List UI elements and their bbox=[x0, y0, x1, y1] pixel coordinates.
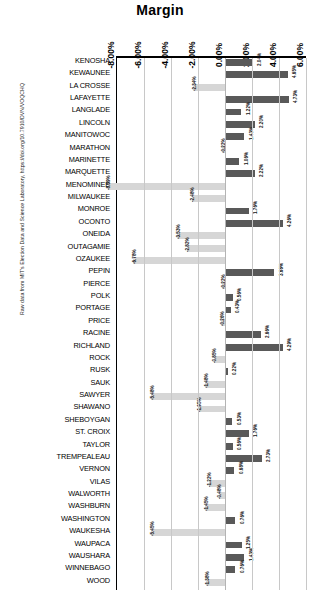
bar-row: 3.66% bbox=[117, 268, 306, 277]
bar-langlade bbox=[225, 109, 241, 116]
bar-polk bbox=[225, 294, 233, 301]
bar-row: 4.26% bbox=[117, 219, 306, 228]
bar-pepin bbox=[225, 269, 274, 276]
bar-value-label: -1.38% bbox=[205, 571, 210, 586]
y-axis-label-portage: PORTAGE bbox=[76, 303, 110, 312]
bar-value-label: 0.56% bbox=[237, 437, 242, 450]
y-axis-label-sheboygan: SHEBOYGAN bbox=[65, 415, 111, 424]
chart-page: Raw data from MIT's Election Data and Sc… bbox=[0, 0, 320, 604]
y-axis-label-marinette: MARINETTE bbox=[69, 155, 110, 164]
y-axis-label-lincoln: LINCOLN bbox=[79, 118, 110, 127]
bar-value-label: 4.73% bbox=[293, 90, 298, 103]
y-axis-label-sawyer: SAWYER bbox=[79, 390, 110, 399]
y-axis-label-monroe: MONROE bbox=[78, 204, 110, 213]
bar-row: 4.73% bbox=[117, 95, 306, 104]
bar-value-label: 4.26% bbox=[287, 214, 292, 227]
y-axis-label-vilas: VILAS bbox=[90, 477, 110, 486]
y-axis-label-oconto: OCONTO bbox=[79, 217, 110, 226]
bar-winnebago bbox=[225, 566, 235, 573]
bar-value-label: 1.25% bbox=[246, 535, 251, 548]
y-axis-label-polk: POLK bbox=[91, 291, 110, 300]
bar-value-label: 0.53% bbox=[237, 412, 242, 425]
zero-line bbox=[225, 58, 226, 590]
y-axis-label-shawano: SHAWANO bbox=[73, 402, 110, 411]
y-axis-label-racine: RACINE bbox=[83, 328, 110, 337]
y-axis-label-wood: WOOD bbox=[87, 576, 110, 585]
bar-marinette bbox=[225, 158, 239, 165]
y-axis-label-waushara: WAUSHARA bbox=[69, 551, 110, 560]
gridline bbox=[252, 58, 253, 590]
bar-row: -3.53% bbox=[117, 231, 306, 240]
y-axis-label-ozaukee: OZAUKEE bbox=[76, 254, 110, 263]
y-axis-label-outagamie: OUTAGAMIE bbox=[68, 242, 110, 251]
y-axis-label-pierce: PIERCE bbox=[83, 279, 110, 288]
y-axis-label-menominee: MENOMINEE bbox=[66, 180, 110, 189]
bar-taylor bbox=[225, 443, 233, 450]
bar-value-label: 0.76% bbox=[240, 560, 245, 573]
bar-oconto bbox=[225, 220, 283, 227]
bar-row: -2.34% bbox=[117, 83, 306, 92]
y-axis-label-milwaukee: MILWAUKEE bbox=[68, 192, 110, 201]
bar-value-label: 4.65% bbox=[292, 65, 297, 78]
y-axis-label-st-croix: ST. CROIX bbox=[75, 427, 110, 436]
bar-row: 0.53% bbox=[117, 417, 306, 426]
bar-row: -0.22% bbox=[117, 281, 306, 290]
bar-row: 2.73% bbox=[117, 454, 306, 463]
bar-menominee bbox=[108, 183, 225, 190]
bar-row: -0.48% bbox=[117, 491, 306, 500]
bar-row: -0.26% bbox=[117, 318, 306, 327]
bar-vernon bbox=[225, 467, 234, 474]
bar-row: 2.66% bbox=[117, 330, 306, 339]
bar-sawyer bbox=[151, 393, 225, 400]
bar-row: 0.56% bbox=[117, 293, 306, 302]
bar-value-label: -1.45% bbox=[204, 497, 209, 512]
bar-row: -6.78% bbox=[117, 256, 306, 265]
bar-value-label: -5.45% bbox=[150, 522, 155, 537]
bar-waukesha bbox=[151, 529, 225, 536]
chart-title: Margin bbox=[0, 2, 320, 18]
bar-row: -2.82% bbox=[117, 244, 306, 253]
bar-monroe bbox=[225, 208, 249, 215]
bar-value-label: -3.53% bbox=[176, 225, 181, 240]
bar-value-label: 1.06% bbox=[244, 152, 249, 165]
bar-row: -0.85% bbox=[117, 355, 306, 364]
bar-row: 2.22% bbox=[117, 169, 306, 178]
bar-row: 0.56% bbox=[117, 442, 306, 451]
bar-row: -8.69% bbox=[117, 182, 306, 191]
bar-row: 1.43% bbox=[117, 132, 306, 141]
bar-value-label: 0.43% bbox=[235, 300, 240, 313]
bar-value-label: 2.22% bbox=[259, 164, 264, 177]
y-axis-label-taylor: TAYLOR bbox=[82, 440, 110, 449]
bar-row: -1.48% bbox=[117, 380, 306, 389]
bar-ozaukee bbox=[133, 257, 225, 264]
bar-value-label: -0.85% bbox=[212, 348, 217, 363]
bar-value-label: 1.76% bbox=[253, 424, 258, 437]
y-axis-label-waupaca: WAUPACA bbox=[74, 539, 110, 548]
bar-racine bbox=[225, 331, 261, 338]
bar-row: 2.04% bbox=[117, 58, 306, 67]
x-axis-tick-labels: -8.00%-6.00%-4.00%-2.00%0.00%2.00%4.00%6… bbox=[0, 22, 320, 56]
bar-kenosha bbox=[225, 59, 253, 66]
gridline bbox=[306, 58, 307, 590]
bar-value-label: 2.20% bbox=[259, 115, 264, 128]
y-axis-label-pepin: PEPIN bbox=[89, 266, 110, 275]
y-axis-label-vernon: VERNON bbox=[79, 464, 110, 473]
bar-shawano bbox=[199, 406, 225, 413]
bar-washington bbox=[225, 517, 235, 524]
bar-value-label: -1.22% bbox=[207, 472, 212, 487]
bar-row: 4.65% bbox=[117, 70, 306, 79]
y-axis-label-price: PRICE bbox=[88, 316, 110, 325]
bar-row: -5.45% bbox=[117, 528, 306, 537]
y-axis-label-kenosha: KENOSHA bbox=[75, 56, 110, 65]
y-axis-label-marquette: MARQUETTE bbox=[65, 167, 110, 176]
y-axis-label-marathon: MARATHON bbox=[69, 143, 110, 152]
bar-value-label: -2.34% bbox=[192, 76, 197, 91]
bar-rows: 2.04%4.65%-2.34%4.73%1.22%2.20%1.43%-0.2… bbox=[117, 58, 306, 590]
bar-row: 1.76% bbox=[117, 429, 306, 438]
gridline bbox=[144, 58, 145, 590]
y-axis-label-rusk: RUSK bbox=[90, 365, 110, 374]
bar-value-label: -6.78% bbox=[132, 249, 137, 264]
bar-row: 1.25% bbox=[117, 541, 306, 550]
bar-value-label: 2.04% bbox=[257, 53, 262, 66]
bar-row: 0.76% bbox=[117, 565, 306, 574]
